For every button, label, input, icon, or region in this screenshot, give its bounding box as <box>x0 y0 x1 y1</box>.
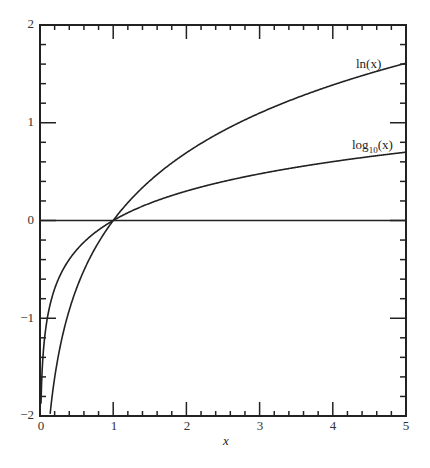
x-tick-label: 4 <box>323 418 343 434</box>
log-subscript: 10 <box>369 145 378 155</box>
log10-annotation: log10(x) <box>352 137 393 155</box>
x-tick-label: 1 <box>104 418 124 434</box>
y-tick-label: 1 <box>4 114 34 130</box>
log-suffix: (x) <box>378 137 393 152</box>
x-tick-label: 5 <box>396 418 416 434</box>
x-tick-label: 0 <box>31 418 51 434</box>
ln-label-text: ln(x) <box>356 56 381 71</box>
log-prefix: log <box>352 137 369 152</box>
y-tick-label: 0 <box>4 212 34 228</box>
ln-annotation: ln(x) <box>356 56 381 72</box>
curve-log10x <box>41 152 406 404</box>
curve-lnx <box>50 63 406 414</box>
y-tick-label: 2 <box>4 16 34 32</box>
y-tick-label: −2 <box>4 407 34 423</box>
x-axis-label: x <box>223 433 229 449</box>
x-tick-label: 2 <box>177 418 197 434</box>
y-tick-label: −1 <box>4 310 34 326</box>
x-tick-label: 3 <box>250 418 270 434</box>
